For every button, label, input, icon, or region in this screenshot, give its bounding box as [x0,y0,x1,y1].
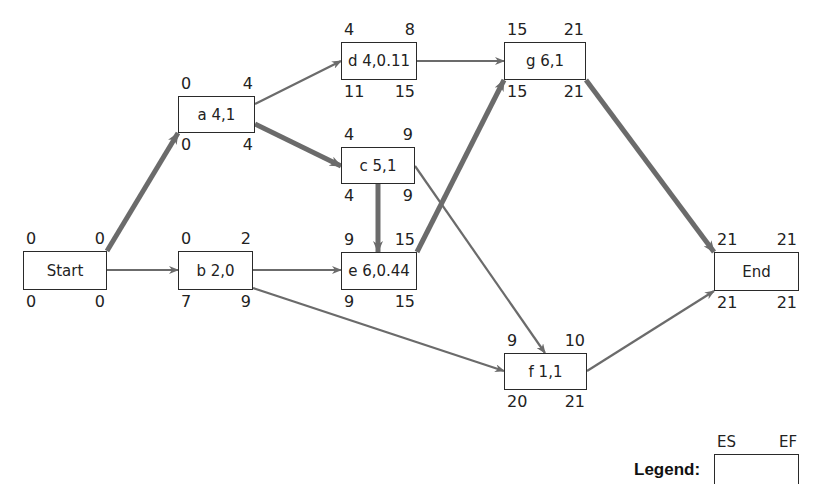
node-es-value: 15 [507,22,527,38]
node-ls-value: 4 [344,188,354,204]
node-lf-value: 21 [547,394,585,410]
node-end: End [714,252,799,291]
node-e: e 6,0.44 [341,252,417,290]
node-lf-value: 21 [759,295,797,311]
node-label: g 6,1 [526,52,564,70]
node-ef-value: 21 [546,22,584,38]
node-ls-value: 15 [507,84,527,100]
node-lf-value: 21 [546,84,584,100]
edge-f-end [587,291,714,371]
node-ls-value: 0 [26,294,36,310]
node-ls-value: 21 [717,295,737,311]
edge-c-f [415,166,545,353]
node-ef-value: 2 [213,231,251,247]
node-ef-value: 21 [759,232,797,248]
node-es-value: 4 [344,127,354,143]
node-ef-value: 4 [215,76,253,92]
node-ef-value: 9 [375,127,413,143]
node-a: a 4,1 [178,96,255,133]
node-es-value: 4 [344,22,354,38]
legend-ef-label: EF [779,434,797,450]
node-es-value: 21 [717,232,737,248]
node-es-value: 0 [181,76,191,92]
node-ef-value: 10 [547,333,585,349]
edge-a-c-critical [255,124,341,166]
node-b: b 2,0 [178,251,253,290]
node-lf-value: 9 [213,294,251,310]
node-ls-value: 9 [344,294,354,310]
node-es-value: 9 [344,232,354,248]
node-es-value: 9 [507,333,517,349]
node-lf-value: 4 [215,137,253,153]
node-label: Start [47,262,84,280]
node-es-value: 0 [181,231,191,247]
edge-start-a-critical [107,133,178,251]
node-es-value: 0 [26,231,36,247]
legend-title: Legend: [634,460,700,480]
legend-box [714,454,799,484]
node-c: c 5,1 [341,147,415,184]
node-label: End [742,263,771,281]
node-label: d 4,0.11 [348,52,410,70]
node-ef-value: 15 [377,232,415,248]
legend-es-label: ES [717,434,736,450]
node-label: c 5,1 [360,157,397,175]
node-label: b 2,0 [196,262,234,280]
node-g: g 6,1 [504,42,586,80]
node-lf-value: 9 [375,188,413,204]
edge-a-d [255,61,341,104]
edge-e-g-critical [417,80,504,252]
node-start: Start [23,251,107,290]
node-ls-value: 7 [181,294,191,310]
node-ef-value: 8 [377,22,415,38]
edge-g-end-critical [586,80,714,252]
node-label: a 4,1 [198,106,236,124]
node-lf-value: 15 [377,84,415,100]
node-f: f 1,1 [504,353,587,390]
node-ls-value: 0 [181,137,191,153]
node-ef-value: 0 [67,231,105,247]
node-d: d 4,0.11 [341,42,417,80]
node-label: f 1,1 [529,363,563,381]
node-ls-value: 20 [507,394,527,410]
node-ls-value: 11 [344,84,364,100]
node-label: e 6,0.44 [348,262,410,280]
node-lf-value: 0 [67,294,105,310]
node-lf-value: 15 [377,294,415,310]
